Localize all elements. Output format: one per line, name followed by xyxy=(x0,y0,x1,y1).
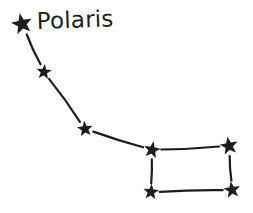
constellation-line xyxy=(230,156,232,181)
constellation-canvas: Polaris xyxy=(0,0,253,213)
constellation-line xyxy=(160,190,223,192)
star-handle-3-icon xyxy=(79,123,91,135)
constellation-line xyxy=(151,159,152,183)
constellation-line xyxy=(27,35,41,65)
star-bowl-bottom-left-icon xyxy=(145,186,157,197)
constellation-lines xyxy=(27,35,232,192)
star-handle-2-icon xyxy=(39,66,50,77)
constellation-line xyxy=(93,132,143,148)
constellation-stars xyxy=(13,15,238,197)
polaris-label: Polaris xyxy=(36,5,114,34)
star-bowl-top-right-icon xyxy=(222,139,236,153)
star-bowl-top-left-icon xyxy=(146,143,159,156)
constellation-drawing: Polaris xyxy=(0,0,253,213)
constellation-line xyxy=(49,79,80,122)
star-polaris-icon xyxy=(13,15,30,32)
constellation-line xyxy=(161,147,219,150)
star-bowl-bottom-right-icon xyxy=(225,183,238,196)
